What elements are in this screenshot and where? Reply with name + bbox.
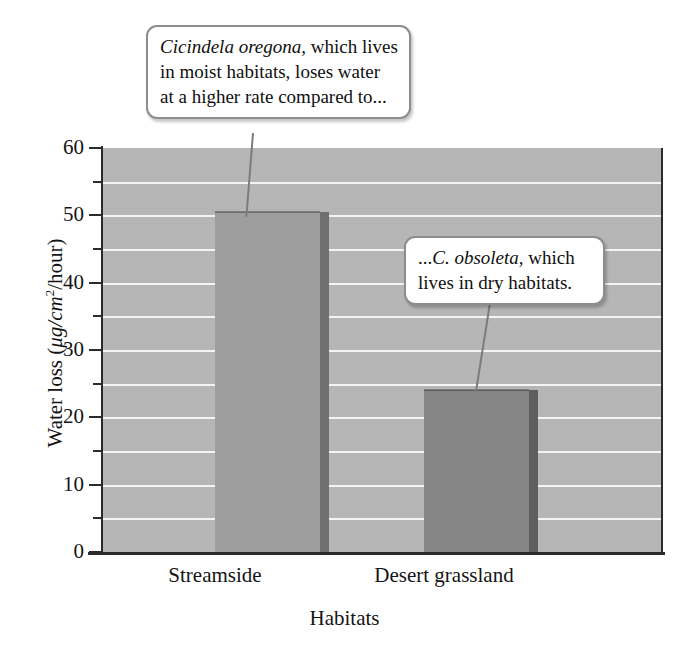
bar-streamside-top-edge: [215, 211, 320, 213]
gridline-50: [103, 215, 661, 217]
bar-desert-grassland[interactable]: [424, 390, 529, 552]
y-axis-title-prefix: Water loss (: [43, 348, 67, 448]
gridline-55: [103, 182, 661, 184]
callout-desert-ellipsis: ...: [418, 247, 432, 268]
x-axis-title: Habitats: [0, 606, 689, 631]
y-axis-title: Water loss (μg/cm2/hour): [42, 133, 68, 553]
y-tick-0: [89, 551, 103, 553]
bar-streamside-side-edge: [320, 212, 329, 552]
bar-streamside[interactable]: [215, 212, 320, 552]
gridline-15: [103, 451, 661, 453]
gridline-5: [103, 518, 661, 520]
y-tick-5: [93, 517, 102, 519]
figure-root: 60 50 40 30 20 10 0 Water loss (μg/cm2/h…: [0, 0, 689, 648]
callout-streamside-text-3: higher rate compared to...: [192, 86, 387, 107]
y-tick-45: [93, 248, 102, 250]
gridline-35: [103, 316, 661, 318]
callout-desert-text-1: , which: [519, 247, 575, 268]
x-tick-label-desert-grassland: Desert grassland: [344, 563, 544, 588]
callout-desert-species: C. obsoleta: [432, 247, 519, 268]
gridline-20: [103, 417, 661, 419]
bar-desert-grassland-face: [424, 390, 529, 552]
y-tick-15: [93, 450, 102, 452]
y-tick-35: [93, 315, 102, 317]
gridline-25: [103, 384, 661, 386]
bar-desert-grassland-side-edge: [529, 390, 538, 552]
y-tick-30: [89, 349, 103, 351]
x-tick-label-streamside: Streamside: [135, 563, 295, 588]
gridline-10: [103, 485, 661, 487]
callout-streamside: Cicindela oregona, which lives in moist …: [146, 25, 411, 119]
gridline-30: [103, 350, 661, 352]
y-axis-title-suffix: /hour): [43, 239, 67, 290]
y-tick-40: [89, 282, 103, 284]
y-tick-55: [93, 181, 102, 183]
plot-area: [103, 148, 663, 552]
bar-streamside-face: [215, 212, 320, 552]
y-tick-25: [93, 383, 102, 385]
callout-desert-grassland: ...C. obsoleta, which lives in dry habit…: [404, 236, 605, 305]
y-tick-10: [89, 484, 103, 486]
callout-desert-text-2: lives in dry habitats.: [418, 272, 572, 293]
x-axis-line: [88, 552, 665, 555]
y-axis-title-unit: μg/cm: [43, 296, 67, 347]
callout-streamside-species: Cicindela oregona: [160, 36, 301, 57]
y-tick-50: [89, 214, 103, 216]
y-tick-60: [89, 147, 103, 149]
y-axis-title-exponent: 2: [42, 290, 57, 297]
y-tick-20: [89, 416, 103, 418]
